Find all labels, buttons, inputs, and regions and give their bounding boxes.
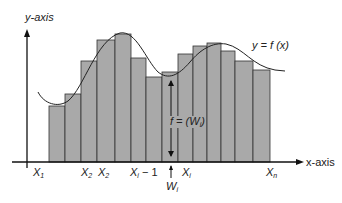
bar-rectangle bbox=[81, 61, 97, 162]
y-axis-arrowhead bbox=[24, 29, 30, 37]
bar-rectangle bbox=[115, 34, 131, 162]
bar-rectangle bbox=[65, 94, 81, 162]
curve-label: y = f (x) bbox=[252, 40, 289, 51]
tick-label-sub: 1 bbox=[40, 172, 44, 179]
bar-rectangle bbox=[253, 70, 270, 162]
height-label-close: ) bbox=[201, 115, 205, 127]
x-tick-label: X1 bbox=[33, 167, 44, 179]
bar-rectangle bbox=[97, 40, 115, 162]
riemann-sum-diagram: y-axis x-axis y = f (x) f = (Wi) X1X2X2X… bbox=[0, 0, 342, 203]
diagram-canvas bbox=[0, 0, 342, 203]
bar-rectangle bbox=[193, 46, 207, 162]
x-axis-label-text: x-axis bbox=[306, 156, 335, 168]
tick-label-sub: 2 bbox=[105, 172, 109, 179]
rectangle-bars bbox=[49, 34, 270, 162]
wi-label-sub: i bbox=[176, 186, 178, 193]
height-label: f = (Wi) bbox=[170, 116, 205, 128]
tick-label-sub: 2 bbox=[88, 172, 92, 179]
x-tick-label: X2 bbox=[98, 167, 109, 179]
tick-label-suffix: − 1 bbox=[139, 166, 158, 178]
y-axis-label: y-axis bbox=[25, 12, 54, 23]
bar-rectangle bbox=[221, 51, 235, 162]
bar-rectangle bbox=[235, 61, 253, 162]
wi-pointer-arrow-icon bbox=[169, 165, 173, 170]
bar-rectangle bbox=[146, 77, 162, 162]
tick-label-sub: i bbox=[189, 172, 191, 179]
bar-rectangle bbox=[207, 43, 221, 162]
height-label-text: f = (W bbox=[170, 115, 200, 127]
wi-label: Wi bbox=[166, 181, 178, 193]
wi-label-base: W bbox=[166, 180, 176, 192]
tick-label-sub: n bbox=[273, 172, 277, 179]
x-tick-label: Xi − 1 bbox=[130, 167, 158, 179]
x-tick-label: Xi bbox=[182, 167, 191, 179]
bar-rectangle bbox=[49, 106, 65, 162]
y-axis-label-text: y-axis bbox=[25, 11, 54, 23]
bar-rectangle bbox=[131, 58, 146, 162]
x-axis-arrowhead bbox=[296, 159, 304, 165]
x-tick-label: X2 bbox=[81, 167, 92, 179]
x-axis-label: x-axis bbox=[306, 157, 335, 168]
x-tick-label: Xn bbox=[266, 167, 277, 179]
curve-label-text: y = f (x) bbox=[252, 39, 289, 51]
bar-rectangle bbox=[178, 54, 193, 162]
